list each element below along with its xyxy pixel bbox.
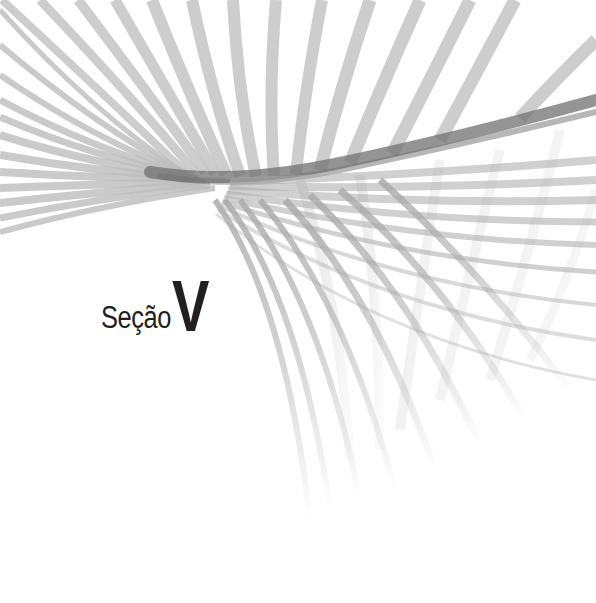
- section-heading: Seção V: [101, 276, 220, 336]
- section-word: Seção: [101, 302, 171, 336]
- section-numeral: V: [172, 276, 209, 336]
- twisted-ribbon-graphic: [0, 0, 596, 603]
- section-divider-page: Seção V: [0, 0, 596, 603]
